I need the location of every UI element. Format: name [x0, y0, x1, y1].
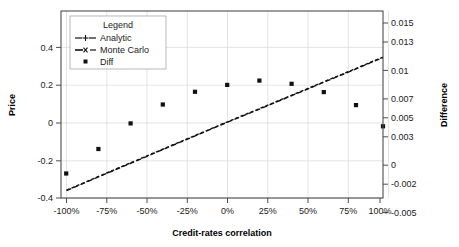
y-axis-title: Price	[7, 94, 17, 116]
diff-point	[225, 83, 229, 87]
diff-point	[96, 147, 100, 151]
diff-point	[129, 121, 133, 125]
x-axis-ticks	[67, 198, 381, 203]
legend-label-monte-carlo: Monte Carlo	[100, 45, 149, 55]
xtick-label: 25%	[259, 206, 277, 216]
x-axis-tick-labels: -100% -75% -50% -25% 0% 25% 50% 75% 100%	[53, 206, 391, 216]
y2tick-label: 0.01	[391, 66, 409, 76]
y2tick-label: 0.013	[391, 37, 414, 47]
diff-point	[161, 102, 165, 106]
xtick-label: 50%	[299, 206, 317, 216]
ytick-label: 0.2	[40, 80, 53, 90]
ytick-label: -0.4	[37, 193, 53, 203]
left-axis-ticks	[56, 47, 61, 198]
diff-point	[257, 79, 261, 83]
right-axis-ticks	[383, 23, 388, 213]
diff-point	[322, 90, 326, 94]
y2tick-label: -0.005	[391, 208, 417, 218]
xtick-label: -75%	[96, 206, 117, 216]
y2tick-label: 0.007	[391, 94, 414, 104]
left-axis-tick-labels: 0.4 0.2 0 -0.2 -0.4	[37, 43, 53, 204]
x-axis-title: Credit-rates correlation	[172, 228, 272, 238]
y2tick-label: 0	[391, 160, 396, 170]
y2tick-label: 0.015	[391, 18, 414, 28]
legend-label-analytic: Analytic	[100, 33, 132, 43]
diff-point	[193, 90, 197, 94]
chart-svg: 0.4 0.2 0 -0.2 -0.4 0.015 0.013 0.01 0.0…	[0, 0, 459, 247]
right-axis-tick-labels: 0.015 0.013 0.01 0.007 0.005 0.003 0 -0.…	[391, 18, 417, 218]
y2-axis-title: Difference	[439, 83, 449, 127]
xtick-label: -25%	[177, 206, 198, 216]
ytick-label: -0.2	[37, 156, 53, 166]
chart-legend: Legend Analytic Monte Carlo Diff	[70, 16, 166, 69]
diff-point	[354, 103, 358, 107]
ytick-label: 0	[48, 118, 53, 128]
ytick-label: 0.4	[40, 43, 53, 53]
y2tick-label: 0.003	[391, 132, 414, 142]
xtick-label: -100%	[53, 206, 79, 216]
diff-point	[290, 82, 294, 86]
xtick-label: 75%	[339, 206, 357, 216]
y2tick-label: -0.002	[391, 179, 417, 189]
diff-point	[64, 171, 68, 175]
xtick-label: 100%	[368, 206, 391, 216]
legend-glyph-diff	[84, 60, 88, 64]
chart-figure: 0.4 0.2 0 -0.2 -0.4 0.015 0.013 0.01 0.0…	[0, 0, 459, 247]
legend-label-diff: Diff	[100, 57, 114, 67]
xtick-label: -50%	[136, 206, 157, 216]
xtick-label: 0%	[221, 206, 234, 216]
legend-title: Legend	[103, 20, 133, 30]
y2tick-label: 0.005	[391, 113, 414, 123]
